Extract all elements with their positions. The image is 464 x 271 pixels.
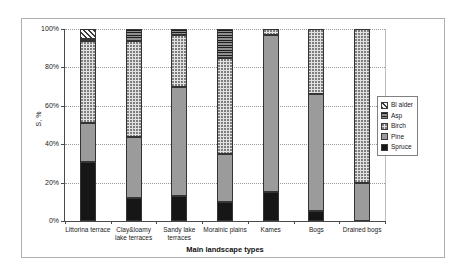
segment-bl-alder: [80, 29, 96, 39]
segment-pine: [354, 183, 370, 221]
segment-spruce: [171, 196, 187, 221]
legend-key-icon: [381, 112, 388, 119]
bar-clay&loamy-lake-terraces: [126, 29, 142, 221]
bar-littorina-terrace: [80, 29, 96, 221]
legend-label: Asp: [391, 112, 402, 120]
y-tick-label: 0%: [31, 217, 59, 225]
segment-asp: [126, 29, 142, 41]
chart-figure: S, % Main landscape types Bl alderAspBir…: [0, 0, 464, 271]
y-tick-label: 60%: [31, 102, 59, 110]
bar-drained-bogs: [354, 29, 370, 221]
y-tick-mark: [61, 67, 64, 68]
legend-item-pine: Pine: [381, 133, 414, 141]
segment-pine: [263, 35, 279, 192]
y-tick-mark: [61, 106, 64, 107]
y-tick-mark: [61, 221, 64, 222]
legend-label: Pine: [391, 133, 404, 141]
legend-item-birch: Birch: [381, 122, 414, 130]
legend-key-icon: [381, 133, 388, 140]
segment-pine: [171, 87, 187, 196]
segment-birch: [354, 29, 370, 183]
bar-bogs: [308, 29, 324, 221]
segment-asp: [217, 29, 233, 58]
segment-pine: [308, 94, 324, 211]
legend-item-asp: Asp: [381, 112, 414, 120]
segment-spruce: [217, 202, 233, 221]
bar-sandy-lake-terraces: [171, 29, 187, 221]
segment-spruce: [126, 198, 142, 221]
segment-spruce: [308, 211, 324, 221]
segment-birch: [126, 41, 142, 137]
y-tick-mark: [61, 183, 64, 184]
y-tick-label: 80%: [31, 63, 59, 71]
legend-label: Bl alder: [391, 101, 413, 109]
segment-birch: [171, 35, 187, 87]
legend-label: Spruce: [391, 143, 412, 151]
bar-kames: [263, 29, 279, 221]
segment-birch: [217, 58, 233, 154]
x-tick-mark: [111, 221, 112, 224]
legend-label: Birch: [391, 122, 406, 130]
x-tick-mark: [248, 221, 249, 224]
legend-box: Bl alderAspBirchPineSpruce: [377, 96, 418, 156]
legend-key-icon: [381, 123, 388, 130]
x-tick-mark: [65, 221, 66, 224]
legend-key-icon: [381, 102, 388, 109]
y-tick-label: 20%: [31, 179, 59, 187]
legend-item-bl-alder: Bl alder: [381, 101, 414, 109]
segment-pine: [217, 154, 233, 202]
plot-area: [65, 29, 385, 221]
x-tick-mark: [156, 221, 157, 224]
y-axis-line: [64, 29, 65, 222]
y-tick-label: 100%: [31, 25, 59, 33]
segment-birch: [308, 29, 324, 94]
segment-pine: [126, 137, 142, 198]
x-tick-mark: [385, 221, 386, 224]
segment-birch: [80, 41, 96, 124]
x-tick-mark: [202, 221, 203, 224]
y-tick-label: 40%: [31, 140, 59, 148]
segment-spruce: [263, 192, 279, 221]
legend-key-icon: [381, 144, 388, 151]
bar-morainic-plains: [217, 29, 233, 221]
segment-pine: [80, 123, 96, 161]
x-axis-title: Main landscape types: [125, 245, 325, 254]
x-category-label: Drained bogs: [335, 226, 389, 234]
y-tick-mark: [61, 29, 64, 30]
x-tick-mark: [339, 221, 340, 224]
legend-item-spruce: Spruce: [381, 143, 414, 151]
segment-spruce: [80, 162, 96, 222]
y-tick-mark: [61, 144, 64, 145]
x-tick-mark: [294, 221, 295, 224]
